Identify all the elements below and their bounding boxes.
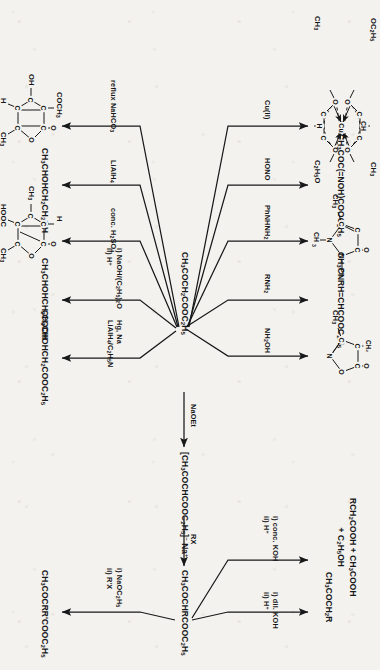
reagent-hydroxylamine: NH2OH [263, 328, 272, 353]
product-acid-hydrolysis-line2: + C2H5OH [334, 498, 346, 597]
svg-text:C: C [40, 221, 47, 226]
svg-text:N: N [326, 353, 333, 358]
reagent-hg-na-line1: Hg, Na [115, 320, 124, 367]
svg-text:N: N [326, 237, 333, 242]
svg-text:O: O [363, 363, 370, 369]
svg-text:C: C [40, 105, 47, 110]
svg-text:C: C [320, 111, 327, 116]
product-acid-hydrolysis: RCH2COOH + CH3COOH + C2H5OH [334, 498, 358, 597]
svg-text:C: C [40, 125, 47, 130]
svg-text:Cu: Cu [338, 123, 345, 132]
cu-chelate-label-oc2h5: OC2H5 [369, 18, 378, 42]
alkylated-product-label: CH3COCHRCOOC2H5 [180, 570, 190, 656]
reagent-reflux-nahco3: reflux NaHCO3 [109, 80, 118, 132]
svg-text:O: O [363, 247, 370, 253]
svg-text:C: C [354, 363, 361, 368]
svg-text:3: 3 [312, 244, 317, 247]
svg-text:C: C [338, 221, 345, 226]
svg-text:C: C [27, 213, 34, 218]
pyrazolone-label-ch3: CH3 [331, 194, 340, 208]
product-ketonic-hydrolysis: CH3COCH2R [324, 572, 334, 622]
reagent-conc-h2so4: conc. H2SO4 [109, 208, 118, 252]
svg-text:C: C [354, 227, 361, 232]
reagent-phenylhydrazine: PhNHNH2 [263, 205, 272, 239]
svg-text:H: H [316, 123, 323, 128]
svg-text:C: C [14, 241, 21, 246]
cu-chelate-label-c2h5o: C2H5O [313, 160, 322, 184]
svg-text:O: O [50, 125, 57, 131]
reagent-hg-na: Hg, Na LiAlH4/C2H5N [105, 320, 124, 367]
isodehydroacetic-label-ch3b: CH3 [0, 248, 8, 262]
reagent-dil-koh-line1: i) dil. KOH [271, 592, 280, 629]
reagent-hg-na-line2: LiAlH4/C2H5N [105, 320, 115, 367]
svg-text:O: O [28, 253, 35, 259]
reagent-conc-koh: i) conc. KOH ii) H+ [261, 516, 280, 562]
svg-text:O: O [344, 99, 351, 105]
svg-text:O: O [338, 369, 345, 375]
reagent-dil-koh-line2: ii) H+ [261, 592, 270, 629]
isodehydroacetic-label-hooc: HOOC [0, 204, 8, 227]
svg-text:O: O [50, 241, 57, 247]
reagent-rx: RX [189, 534, 198, 544]
svg-text:C: C [354, 247, 361, 252]
product-dialkylated-label: CH3COCRR'COOC2H5 [40, 570, 50, 658]
reagent-conc-koh-line2: ii) H+ [261, 516, 270, 562]
dehydroacetic-label-oh: OH [27, 74, 36, 86]
svg-text:C: C [40, 241, 47, 246]
svg-text:C: C [354, 343, 361, 348]
svg-text:C: C [356, 111, 363, 116]
reagent-naoet: NaOEt [189, 404, 198, 427]
central-compound-label: CH3COCH2COOC2H5 [180, 252, 190, 335]
reagent-naoh-ether: i) NaOH/(C2H5)2O ii) H+ [105, 248, 124, 309]
reagent-dil-koh: i) dil. KOH ii) H+ [261, 592, 280, 629]
product-acid-hydrolysis-line1: RCH2COOH + CH3COOH [346, 498, 358, 597]
svg-text:C: C [14, 221, 21, 226]
dehydroacetic-label-ch3: CH3 [0, 132, 8, 146]
reagent-hono: HONO [263, 158, 272, 181]
cu-chelate-label-ch3-bottom: CH3 [313, 16, 322, 30]
svg-text:C: C [338, 337, 345, 342]
reaction-scheme-canvas: CH3COCH2COOC2H5 NaOEt [CH3COCHCOOC2H5]– … [0, 0, 380, 670]
dehydroacetic-label-h: H [0, 98, 8, 104]
reagent-conc-koh-line1: i) conc. KOH [271, 516, 280, 562]
reagent-primary-amine: RNH2 [263, 274, 272, 293]
isodehydroacetic-label-ch3: CH3 [27, 186, 36, 200]
svg-text:C: C [14, 125, 21, 130]
cu-chelate-label-ch3-top: CH3 [369, 162, 378, 176]
reagent-dialkylation: i) NaOC2H5 ii) R'X [105, 568, 124, 607]
svg-text:C: C [27, 97, 34, 102]
reagent-cu-ii: Cu(II) [263, 100, 272, 119]
svg-text:C: C [356, 135, 363, 140]
reagent-naoh-ether-line2: ii) H+ [105, 248, 114, 309]
svg-text:CH: CH [360, 121, 367, 131]
product-isoxazolone: CC CO NO CH₂ [312, 322, 372, 398]
dehydroacetic-label-coch3: COCH3 [55, 92, 64, 118]
isoxazolone-label-ch3: CH3 [331, 310, 340, 324]
svg-text:C: C [14, 105, 21, 110]
svg-text:O: O [332, 99, 339, 105]
svg-text:O: O [28, 137, 35, 143]
product-hydroxybutyrate-ester-label: CH3CHOHCH2COOC2H5 [40, 310, 50, 405]
reagent-lialh4: LiAlH4 [109, 160, 118, 183]
reagent-naoh-ether-line1: i) NaOH/(C2H5)2O [114, 248, 124, 309]
reagent-dialkylation-line2: ii) R'X [105, 568, 114, 607]
svg-text:CH₂: CH₂ [365, 340, 372, 352]
reagent-dialkylation-line1: i) NaOC2H5 [114, 568, 124, 607]
isodehydroacetic-label-h: H [55, 216, 64, 222]
svg-text:CH: CH [313, 232, 320, 242]
svg-text:C: C [320, 135, 327, 140]
